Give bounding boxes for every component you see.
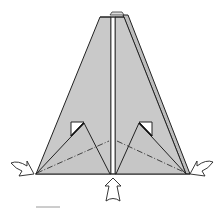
- origami-diagram: [0, 0, 223, 211]
- center-slit: [111, 17, 115, 174]
- push-arrow-left-icon: [11, 161, 34, 176]
- push-arrow-up-icon: [105, 178, 121, 201]
- top-tab: [110, 12, 124, 15]
- push-arrow-right-icon: [190, 161, 213, 176]
